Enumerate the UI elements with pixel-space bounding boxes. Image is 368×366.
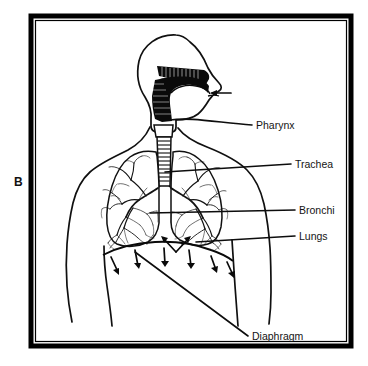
- label-diaphragm: Diaphragm: [252, 330, 304, 342]
- larynx: [154, 125, 173, 137]
- panel-letter-b: B: [14, 175, 23, 189]
- label-pharynx: Pharynx: [256, 119, 295, 131]
- respiratory-system-figure: B: [0, 0, 368, 366]
- diagram-canvas: B: [0, 0, 368, 366]
- label-lungs: Lungs: [299, 230, 328, 242]
- label-bronchi: Bronchi: [299, 204, 335, 216]
- label-trachea: Trachea: [295, 158, 333, 170]
